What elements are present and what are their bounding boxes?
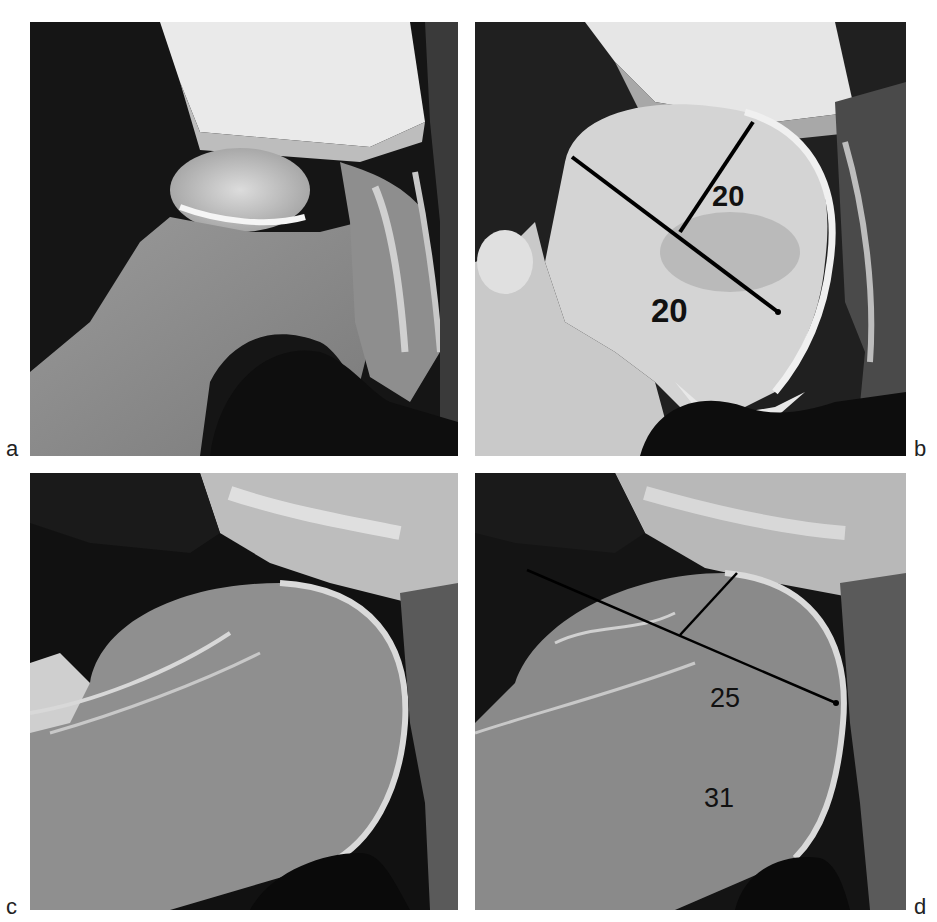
measurement-value-b-diagonal: 20 — [651, 292, 688, 330]
measurement-value-d-perpendicular: 25 — [710, 683, 740, 714]
measurement-value-d-diagonal: 31 — [704, 783, 734, 814]
panel-label-a: a — [6, 438, 18, 460]
panel-label-d: d — [914, 896, 926, 918]
panel-label-c: c — [6, 896, 17, 918]
radiograph-panel-b: 20 20 — [475, 22, 906, 456]
radiograph-panel-a — [30, 22, 458, 456]
measurement-value-b-perpendicular: 20 — [712, 180, 744, 213]
radiograph-image-b — [475, 22, 906, 456]
radiograph-image-a — [30, 22, 458, 456]
radiograph-image-c — [30, 473, 458, 910]
radiograph-image-d — [475, 473, 906, 910]
panel-label-b: b — [914, 438, 926, 460]
radiograph-panel-d: 25 31 — [475, 473, 906, 910]
radiograph-panel-c — [30, 473, 458, 910]
